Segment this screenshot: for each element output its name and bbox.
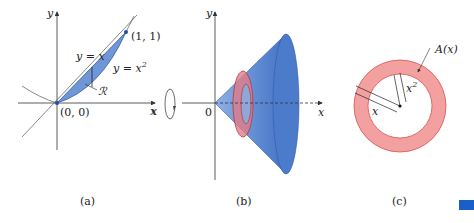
washer-inner xyxy=(241,84,251,124)
rotation-about-x-icon xyxy=(165,89,176,119)
caption-a: (a) xyxy=(80,195,95,208)
point-one-one-label: (1, 1) xyxy=(131,30,161,43)
curve-label: y = x2 xyxy=(112,60,147,75)
caption-b: (b) xyxy=(236,195,252,208)
panel-b: y x x 0 (b) xyxy=(150,7,325,208)
cone-rim xyxy=(273,34,299,174)
parabola-left xyxy=(22,86,57,103)
x-axis-label-left: x xyxy=(150,105,157,118)
line-label: y = x xyxy=(75,50,105,63)
washer-center xyxy=(398,104,401,107)
x-axis-label-right: x xyxy=(318,106,325,119)
solid-of-revolution-figure: y x (1, 1) (0, 0) y = x y = x2 ℛ (a) y x… xyxy=(0,0,474,223)
point-one-one xyxy=(124,30,128,34)
caption-c: (c) xyxy=(392,195,407,208)
y-axis-label: y xyxy=(46,7,54,20)
y-axis-label: y xyxy=(205,7,213,20)
region-label: ℛ xyxy=(98,85,108,98)
point-origin xyxy=(55,101,59,105)
origin-label: (0, 0) xyxy=(60,106,90,119)
corner-tab xyxy=(459,200,474,210)
outer-radius-label: x xyxy=(372,105,379,118)
area-label: A(x) xyxy=(434,43,458,56)
origin-label: 0 xyxy=(205,106,212,119)
panel-c: A(x) x x2 (c) xyxy=(354,43,458,208)
panel-a: y x (1, 1) (0, 0) y = x y = x2 ℛ (a) xyxy=(18,7,161,208)
